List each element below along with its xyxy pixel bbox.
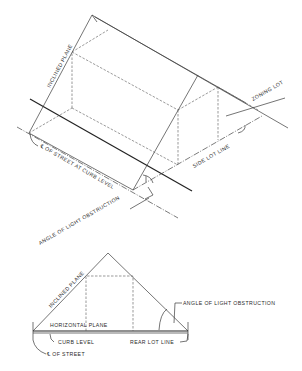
label-street-centerline: ℄ OF STREET: [46, 351, 85, 357]
box-top-side-edge: [178, 87, 218, 110]
section-diagram: INCLINED PLANE HORIZONTAL PLANE CURB LEV…: [33, 253, 275, 357]
box-bottom-front-edge: [72, 108, 178, 165]
isometric-diagram: INCLINED PLANE ZONING LOT SIDE LOT LINE …: [17, 15, 288, 246]
angle-leader-section: [174, 303, 182, 323]
label-inclined-plane-section: INCLINED PLANE: [47, 270, 85, 309]
inclined-plane-section: [33, 253, 188, 331]
rear-lot-leader: [180, 334, 188, 342]
label-horizontal-plane: HORIZONTAL PLANE: [50, 322, 108, 328]
street-centerline: [17, 127, 178, 218]
label-rear-lot-line: REAR LOT LINE: [130, 339, 174, 345]
label-inclined-plane: INCLINED PLANE: [46, 43, 74, 89]
inclined-plane-left-edge: [29, 15, 92, 133]
angle-leader: [145, 187, 153, 199]
inclined-plane-front-edge: [133, 75, 198, 190]
label-zoning-lot: ZONING LOT: [251, 79, 285, 102]
label-angle-light-obstruction-top: ANGLE OF LIGHT OBSTRUCTION: [38, 194, 121, 245]
curb-level-leader: [50, 334, 54, 342]
side-lot-line: [133, 116, 262, 190]
label-angle-light-obstruction-section: ANGLE OF LIGHT OBSTRUCTION: [183, 300, 275, 306]
label-curb-level: CURB LEVEL: [58, 339, 94, 345]
label-side-lot-line: SIDE LOT LINE: [192, 143, 231, 169]
obstruction-leader: [130, 198, 149, 209]
angle-arc-section: [159, 309, 167, 330]
diagram-canvas: INCLINED PLANE ZONING LOT SIDE LOT LINE …: [0, 0, 302, 371]
box-top-front-edge: [72, 52, 178, 110]
label-street-centerline-curb: ℄ OF STREET AT CURB LEVEL: [39, 142, 116, 190]
base-front-edge: [29, 133, 133, 190]
front-lot-line: [30, 99, 192, 191]
street-centerline-leader: [33, 340, 46, 354]
